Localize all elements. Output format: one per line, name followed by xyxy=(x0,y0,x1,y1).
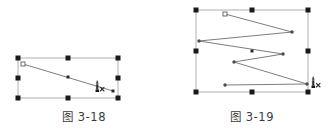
line-mid-node-icon[interactable] xyxy=(251,50,254,53)
handle-middle-right[interactable] xyxy=(116,76,121,81)
handle-top-right[interactable] xyxy=(116,56,121,61)
figure-caption-right: 图 3-19 xyxy=(168,108,336,124)
handle-bottom-left[interactable] xyxy=(16,96,21,101)
handle-top-left[interactable] xyxy=(16,56,21,61)
handle-bottom-right[interactable] xyxy=(116,96,121,101)
polyline-vertex-node[interactable] xyxy=(305,82,308,85)
figure-panel-left: 图 3-18 xyxy=(0,0,168,136)
line-start-node-icon[interactable] xyxy=(21,62,25,66)
polyline-vertex-node[interactable] xyxy=(197,39,200,42)
polyline-vertex-node[interactable] xyxy=(232,60,235,63)
handle-middle-right[interactable] xyxy=(306,49,311,54)
handle-bottom-right[interactable] xyxy=(306,90,311,95)
handle-top-center[interactable] xyxy=(250,8,255,13)
polyline-vertex-node[interactable] xyxy=(290,30,293,33)
paint-bucket-cursor-icon xyxy=(312,77,321,89)
handle-top-left[interactable] xyxy=(194,8,199,13)
handle-middle-left[interactable] xyxy=(16,76,21,81)
handle-top-right[interactable] xyxy=(306,8,311,13)
polyline-vertex-node[interactable] xyxy=(223,83,226,86)
polyline-vertex-node[interactable] xyxy=(281,52,284,55)
drawing-canvas-right[interactable] xyxy=(168,0,336,108)
drawing-canvas-left[interactable] xyxy=(0,0,168,108)
paint-bucket-cursor-icon xyxy=(96,81,105,93)
handle-bottom-center[interactable] xyxy=(66,96,71,101)
handle-top-center[interactable] xyxy=(66,56,71,61)
figure-panel-right: 图 3-19 xyxy=(168,0,336,136)
handle-bottom-center[interactable] xyxy=(250,90,255,95)
line-start-node-icon[interactable] xyxy=(223,12,227,16)
line-end-node-icon[interactable] xyxy=(112,90,115,93)
figure-caption-left: 图 3-18 xyxy=(0,108,168,124)
handle-middle-left[interactable] xyxy=(194,49,199,54)
line-mid-node-icon[interactable] xyxy=(67,76,70,79)
handle-bottom-left[interactable] xyxy=(194,90,199,95)
